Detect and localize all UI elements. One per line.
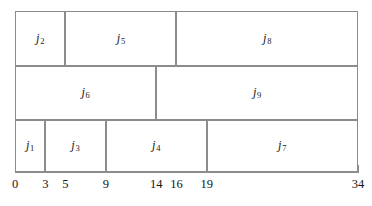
job-block-j4: j4	[106, 120, 207, 172]
job-block-j3: j3	[45, 120, 106, 172]
x-axis-line	[15, 172, 359, 173]
job-block-subscript: 7	[282, 143, 286, 153]
x-axis-tick-3	[45, 165, 46, 172]
job-block-subscript: 9	[257, 90, 261, 100]
job-block-j2: j2	[15, 11, 65, 66]
job-block-subscript: 3	[75, 143, 79, 153]
x-axis-tick-label-16: 16	[170, 178, 183, 191]
schedule-chart: j2j5j8j6j9j1j3j4j7 035914161934	[0, 0, 372, 206]
x-axis-tick-9	[106, 165, 107, 172]
job-block-label: j3	[71, 139, 79, 153]
x-axis-tick-label-14: 14	[150, 178, 163, 191]
x-axis-tick-0	[15, 165, 16, 172]
job-block-subscript: 8	[267, 36, 271, 46]
job-block-j6: j6	[15, 66, 156, 120]
x-axis-tick-label-0: 0	[12, 178, 18, 191]
job-block-label: j9	[253, 86, 261, 100]
job-block-j8: j8	[176, 11, 358, 66]
job-block-subscript: 5	[121, 36, 125, 46]
x-axis-tick-34	[358, 165, 359, 172]
job-block-label: j1	[26, 139, 34, 153]
job-block-j7: j7	[207, 120, 358, 172]
job-block-subscript: 6	[86, 90, 90, 100]
x-axis-tick-label-34: 34	[352, 178, 365, 191]
job-block-label: j4	[152, 139, 160, 153]
job-block-label: j2	[36, 32, 44, 46]
job-block-j1: j1	[15, 120, 45, 172]
x-axis-tick-label-9: 9	[103, 178, 109, 191]
job-block-subscript: 1	[30, 143, 34, 153]
x-axis-tick-19	[207, 165, 208, 172]
job-block-j5: j5	[65, 11, 176, 66]
x-axis-tick-label-5: 5	[62, 178, 68, 191]
job-block-subscript: 4	[156, 143, 160, 153]
job-block-label: j5	[117, 32, 125, 46]
x-axis-tick-label-19: 19	[200, 178, 213, 191]
job-block-subscript: 2	[40, 36, 44, 46]
job-block-label: j6	[81, 86, 89, 100]
job-block-j9: j9	[156, 66, 358, 120]
x-axis-tick-label-3: 3	[42, 178, 48, 191]
job-block-label: j8	[263, 32, 271, 46]
job-block-label: j7	[278, 139, 286, 153]
